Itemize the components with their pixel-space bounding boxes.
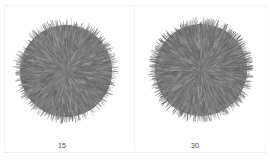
panel-caption: 15 (42, 142, 82, 149)
panel-caption: 30 (175, 142, 215, 149)
panel-right: 30 (135, 0, 270, 160)
fur-ball-image (146, 13, 256, 127)
fur-ball-image (11, 14, 121, 128)
fur-ball-render (11, 14, 121, 128)
panel-left: 15 (0, 0, 135, 160)
fur-ball-render (146, 13, 256, 127)
